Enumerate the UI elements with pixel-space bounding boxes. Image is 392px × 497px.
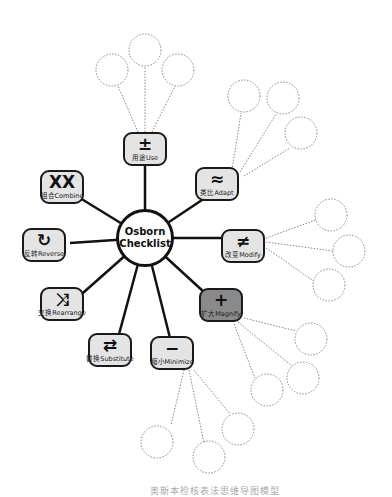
minus-icon: − [165, 340, 179, 357]
node-label: 改变Modify [225, 251, 261, 259]
node-label: 反转Reverse [24, 250, 64, 258]
node-reverse: ↻ 反转Reverse [22, 228, 66, 262]
node-label: 类比Adapt [200, 189, 233, 197]
node-label: 缩小Minimize [151, 358, 194, 366]
center-title-line1: Osborn [125, 226, 166, 238]
swap-arrows-icon: ⇄ [103, 337, 117, 354]
node-modify: ≠ 改变Modify [221, 229, 265, 263]
node-adapt: ≈ 类比Adapt [195, 167, 239, 201]
center-node-osborn-checklist: Osborn Checklist [116, 209, 174, 267]
node-label: 用途Use [132, 154, 158, 162]
node-label: 交换Rearrange [38, 309, 86, 317]
node-label: 扩大Magnify [201, 310, 241, 318]
approx-icon: ≈ [210, 171, 224, 188]
node-label: 组合Combine [41, 192, 84, 200]
node-label: 替换Substitute [86, 355, 133, 363]
not-equal-icon: ≠ [236, 233, 250, 250]
plus-icon: + [214, 292, 228, 309]
plus-minus-icon: ± [138, 136, 152, 153]
node-use: ± 用途Use [123, 132, 167, 166]
crossed-arrows-icon: ⤨ [55, 291, 69, 308]
node-substitute: ⇄ 替换Substitute [88, 333, 132, 367]
node-minimize: − 缩小Minimize [150, 336, 194, 370]
node-magnify: + 扩大Magnify [199, 288, 243, 322]
reverse-cycle-icon: ↻ [37, 232, 51, 249]
node-rearrange: ⤨ 交换Rearrange [40, 287, 84, 321]
double-x-icon: XX [49, 174, 75, 191]
center-title-line2: Checklist [119, 238, 170, 250]
figure-caption: 奥斯本检核表法思维导图模型 [150, 484, 280, 497]
node-combine: XX 组合Combine [40, 170, 84, 204]
